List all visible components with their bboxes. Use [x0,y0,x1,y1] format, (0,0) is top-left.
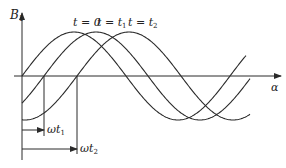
y-axis-label: B1 [9,8,24,23]
marker-label-omega-t2: ωt2 [80,142,98,156]
marker-label-omega-t1: ωt1 [47,123,65,137]
x-axis-label: α [271,81,279,94]
travelling-wave-diagram: B1 α t = 0 t = t1 t = t2 ωt1 ωt2 [0,0,286,168]
curve-label-t2: t = t2 [128,16,158,30]
curve-label-t1: t = t1 [97,16,127,30]
